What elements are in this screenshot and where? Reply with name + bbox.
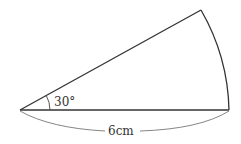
- angle-label: 30°: [54, 95, 75, 109]
- radius-slanted: [20, 10, 201, 110]
- radius-label: 6cm: [108, 124, 134, 138]
- sector-arc: [201, 10, 229, 110]
- radius-brace-right: [140, 111, 229, 131]
- sector-diagram: 30° 6cm: [0, 0, 241, 144]
- radius-brace-left: [20, 111, 105, 131]
- angle-marker: [46, 95, 50, 110]
